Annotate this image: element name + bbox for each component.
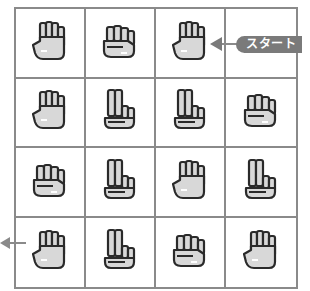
grid-cell <box>86 79 156 149</box>
scissors-hand-icon <box>99 228 141 276</box>
grid-cell <box>16 218 86 288</box>
grid-cell <box>86 9 156 79</box>
grid-cell <box>156 148 226 218</box>
grid-cell <box>226 218 296 288</box>
grid-cell <box>86 218 156 288</box>
paper-hand-icon <box>169 19 211 67</box>
grid-cell <box>86 148 156 218</box>
paper-hand-icon <box>29 19 71 67</box>
grid-cell <box>16 148 86 218</box>
paper-hand-icon <box>240 228 282 276</box>
start-label: スタート <box>236 36 302 53</box>
paper-hand-icon <box>29 228 71 276</box>
grid-cell <box>156 79 226 149</box>
scissors-hand-icon <box>169 88 211 136</box>
grid-cell <box>16 9 86 79</box>
grid-cell <box>16 79 86 149</box>
scissors-hand-icon <box>99 88 141 136</box>
paper-hand-icon <box>29 88 71 136</box>
grid-cell <box>156 218 226 288</box>
paper-hand-icon <box>169 158 211 206</box>
scissors-hand-icon <box>99 158 141 206</box>
rock-hand-icon <box>240 88 282 136</box>
grid-cell <box>226 148 296 218</box>
rock-hand-icon <box>99 19 141 67</box>
grid-cell <box>226 79 296 149</box>
exit-arrow-icon <box>0 236 26 250</box>
scissors-hand-icon <box>240 158 282 206</box>
rock-hand-icon <box>169 228 211 276</box>
rock-hand-icon <box>29 158 71 206</box>
